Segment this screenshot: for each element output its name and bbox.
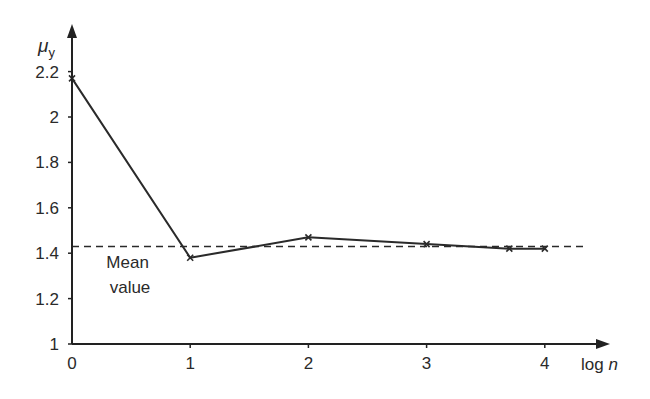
y-tick-label: 1.8 (35, 153, 59, 172)
y-axis-arrow-icon (67, 24, 77, 38)
data-series (69, 75, 548, 260)
x-tick-label: 1 (185, 354, 194, 373)
y-tick-label: 2.2 (35, 63, 59, 82)
series-line (72, 78, 545, 257)
y-axis-ticks: 11.21.41.61.822.2 (35, 63, 72, 354)
mean-value-annotation: Mean value (106, 253, 153, 297)
x-tick-label: 2 (304, 354, 313, 373)
x-axis-arrow-icon (596, 339, 610, 349)
y-tick-label: 1.2 (35, 290, 59, 309)
x-axis-label-italic: n (608, 355, 617, 374)
x-axis-label: log n (581, 355, 618, 374)
axes (67, 24, 610, 349)
x-axis-label-normal: log (581, 355, 608, 374)
line-chart: 11.21.41.61.822.2 01234 μy log n Mean va… (0, 0, 650, 399)
y-tick-label: 1.6 (35, 199, 59, 218)
mean-value-annotation-line1: Mean (106, 253, 149, 272)
x-tick-label: 0 (67, 354, 76, 373)
y-tick-label: 1 (50, 335, 59, 354)
x-axis-ticks: 01234 (67, 344, 549, 373)
y-axis-label-main: μ (37, 35, 49, 56)
y-axis-label-sub: y (48, 45, 55, 60)
mean-value-annotation-line2: value (110, 278, 151, 297)
x-tick-label: 4 (540, 354, 549, 373)
y-axis-label: μy (37, 35, 55, 60)
y-tick-label: 2 (50, 108, 59, 127)
y-tick-label: 1.4 (35, 244, 59, 263)
x-tick-label: 3 (422, 354, 431, 373)
